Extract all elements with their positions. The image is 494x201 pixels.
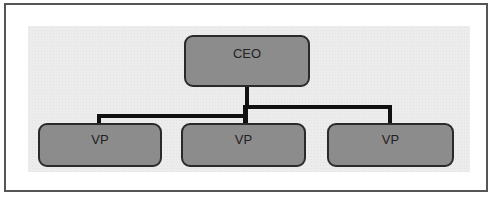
- node-ceo-label: CEO: [186, 46, 308, 61]
- node-ceo: CEO: [184, 35, 310, 87]
- connector-left-horizontal: [97, 114, 247, 118]
- node-vp-label: VP: [40, 132, 160, 147]
- connector-right-horizontal: [245, 105, 392, 109]
- node-vp-center: VP: [181, 123, 306, 167]
- connector-right-drop: [388, 105, 392, 124]
- node-vp-label: VP: [329, 132, 452, 147]
- node-vp-right: VP: [327, 123, 454, 167]
- node-vp-label: VP: [183, 132, 304, 147]
- node-vp-left: VP: [38, 123, 162, 167]
